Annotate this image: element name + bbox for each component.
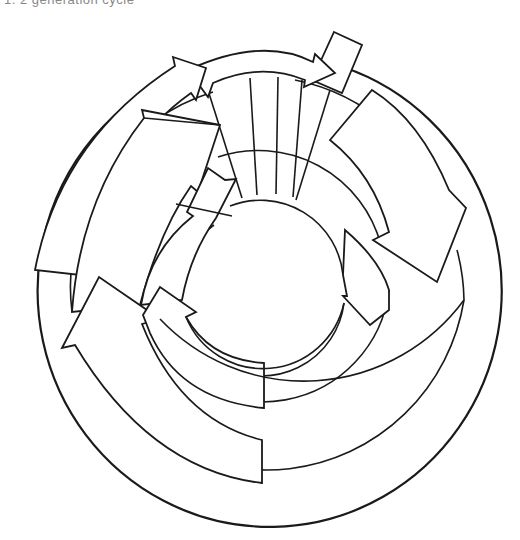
top-outer-arrow: [188, 51, 335, 97]
inner-circle-top: [230, 200, 343, 275]
cycle-diagram: [0, 0, 520, 540]
